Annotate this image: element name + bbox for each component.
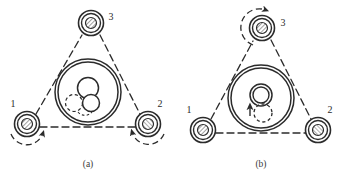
roller-3-hub	[257, 23, 268, 34]
roller-2-label: 2	[328, 104, 333, 115]
canvas-background	[0, 0, 350, 181]
roller-3-hub	[86, 18, 97, 29]
roller-1-label: 1	[187, 104, 192, 115]
roller-1-label: 1	[11, 98, 16, 109]
roller-2-hub	[143, 119, 154, 130]
roller-3-label: 3	[109, 11, 114, 22]
roller-1-hub	[22, 119, 33, 130]
roller-3-label: 3	[281, 17, 286, 28]
roller-2-label: 2	[158, 98, 163, 109]
inner-lower-circle	[83, 95, 100, 112]
panel-a-caption: (a)	[83, 159, 94, 170]
panel-b-caption: (b)	[255, 159, 266, 170]
mechanism-diagram: 1 2 3 (a)	[0, 0, 350, 181]
inner-ring-inner	[253, 87, 269, 103]
roller-2-hub	[313, 125, 324, 136]
roller-1-hub	[198, 125, 209, 136]
figure-container: 1 2 3 (a)	[0, 0, 350, 181]
